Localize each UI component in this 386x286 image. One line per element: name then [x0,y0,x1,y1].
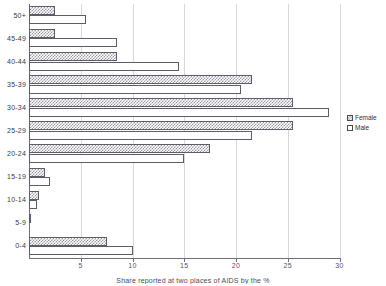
y-axis-label-10-14: 10-14 [0,196,26,203]
gridline-30 [340,4,341,258]
y-axis-label-30-34: 30-34 [0,104,26,111]
bar-male-30-34 [29,108,329,117]
legend-swatch-female-icon [347,115,353,121]
legend-swatch-male-icon [347,125,353,131]
bar-male-25-29 [29,131,252,140]
x-tick-label-15: 15 [172,262,196,269]
bar-male-50plus [29,15,86,24]
x-tick-label-20: 20 [224,262,248,269]
legend-item-male[interactable]: Male [347,123,377,133]
bar-female-25-29 [29,121,293,130]
legend-item-female[interactable]: Female [347,113,377,123]
y-axis-label-0-4: 0-4 [0,242,26,249]
bar-female-40-44 [29,52,117,61]
bar-female-0-4 [29,237,107,246]
bar-male-0-4 [29,246,133,255]
bar-male-10-14 [29,200,37,209]
x-tick-label-10: 10 [121,262,145,269]
x-tick-label-5: 5 [69,262,93,269]
y-axis-label-20-24: 20-24 [0,150,26,157]
bar-female-45-49 [29,29,55,38]
bar-female-20-24 [29,144,210,153]
x-tick-label-25: 25 [276,262,300,269]
bar-female-35-39 [29,75,252,84]
y-axis-label-15-19: 15-19 [0,173,26,180]
bar-male-40-44 [29,62,179,71]
legend: Female Male [347,113,377,133]
legend-label-female: Female [355,113,377,123]
age-sex-pyramid-chart: 51015202530 50+45-4940-4435-3930-3425-29… [0,0,386,286]
y-axis-label-40-44: 40-44 [0,58,26,65]
bar-male-45-49 [29,38,117,47]
bar-female-15-19 [29,168,45,177]
y-axis-label-50plus: 50+ [0,12,26,19]
bar-female-50plus [29,6,55,15]
y-axis-label-35-39: 35-39 [0,81,26,88]
y-axis-label-45-49: 45-49 [0,35,26,42]
y-axis-label-25-29: 25-29 [0,127,26,134]
x-axis-title: Share reported at two places of AIDS by … [0,277,386,284]
bar-male-20-24 [29,154,184,163]
bar-male-35-39 [29,85,241,94]
bar-male-15-19 [29,177,50,186]
bar-female-30-34 [29,98,293,107]
y-axis-label-5-9: 5-9 [0,219,26,226]
x-tick-label-30: 30 [328,262,352,269]
bar-female-5-9 [29,214,31,223]
gridline-25 [288,4,289,258]
legend-label-male: Male [355,123,369,133]
bar-female-10-14 [29,191,39,200]
